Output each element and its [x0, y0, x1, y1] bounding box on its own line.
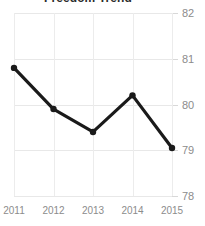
gridline-vertical [172, 13, 173, 196]
y-axis-label: 78 [182, 190, 194, 202]
gridline-vertical [14, 13, 15, 196]
x-axis-label: 2013 [82, 205, 104, 216]
y-axis-label: 81 [182, 53, 194, 65]
line-chart: Freedom Trend 82818079782011201220132014… [0, 0, 205, 226]
y-axis-tick [172, 196, 178, 197]
gridline-horizontal [14, 196, 172, 197]
gridline-vertical [133, 13, 134, 196]
x-axis-label: 2012 [42, 205, 64, 216]
plot-area [14, 13, 172, 196]
x-axis-label: 2015 [161, 205, 183, 216]
y-axis-label: 80 [182, 99, 194, 111]
gridline-vertical [93, 13, 94, 196]
y-axis-label: 82 [182, 7, 194, 19]
chart-title: Freedom Trend [0, 0, 176, 5]
gridline-vertical [54, 13, 55, 196]
x-axis-label: 2011 [3, 205, 25, 216]
x-axis-label: 2014 [121, 205, 143, 216]
y-axis-label: 79 [182, 144, 194, 156]
